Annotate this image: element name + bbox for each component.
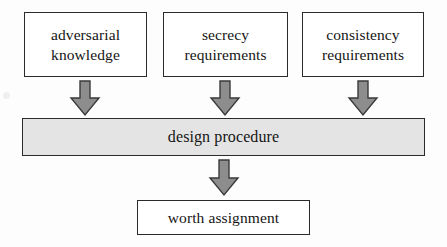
flow-diagram: adversarial knowledge secrecy requiremen… [0,0,447,247]
output-label: worth assignment [168,208,279,228]
arrow-down-icon-adversarial [69,80,101,117]
node-design-procedure[interactable]: design procedure [22,118,425,156]
arrow-down-icon-process-output [208,159,240,197]
arrow-down-icon-consistency [347,80,379,117]
node-label-line-2: knowledge [51,45,120,65]
process-label: design procedure [168,128,279,146]
node-label-line-2: requirements [184,45,266,65]
node-label-line-1: secrecy [202,25,249,45]
node-worth-assignment[interactable]: worth assignment [137,200,310,235]
node-consistency-requirements[interactable]: consistency requirements [302,12,424,77]
node-label-line-1: adversarial [51,25,120,45]
node-label-line-2: requirements [322,45,404,65]
node-label-line-1: consistency [326,25,399,45]
arrow-down-icon-secrecy [209,80,241,117]
scan-artifact-speck [3,92,10,99]
node-adversarial-knowledge[interactable]: adversarial knowledge [24,12,147,77]
node-secrecy-requirements[interactable]: secrecy requirements [163,12,288,77]
